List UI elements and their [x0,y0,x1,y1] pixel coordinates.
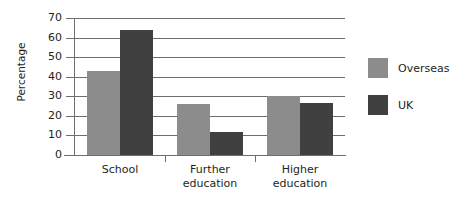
x-axis-separator-tick [165,155,166,162]
legend-item-uk[interactable]: UK [368,95,449,115]
y-tick-mark [66,77,74,78]
x-axis-label-line: School [75,163,165,177]
x-axis-line [64,155,346,156]
x-axis-label-line: education [255,177,345,191]
y-tick-mark [66,38,74,39]
y-tick-label: 20 [38,110,62,121]
y-tick-mark [66,96,74,97]
y-tick-label: 10 [38,129,62,140]
bar-uk-school [120,30,153,155]
uk-swatch [368,95,388,115]
gridline [75,38,345,39]
y-tick-mark [66,135,74,136]
bar-overseas-further-education [177,104,210,155]
legend-item-overseas[interactable]: Overseas [368,58,449,78]
gridline [75,18,345,19]
y-tick-mark [66,18,74,19]
x-axis-label-line: Further [165,163,255,177]
legend-label: Overseas [398,62,449,75]
y-tick-label: 0 [38,149,62,160]
y-tick-label: 70 [38,12,62,23]
y-tick-label: 60 [38,32,62,43]
x-axis-label-line: education [165,177,255,191]
y-axis-title: Percentage [12,0,30,152]
bar-uk-higher-education [300,103,333,155]
y-tick-mark [66,57,74,58]
y-tick-mark [66,155,74,156]
x-axis-label-further-education: Furthereducation [165,163,255,191]
bar-overseas-school [87,71,120,155]
overseas-swatch [368,58,388,78]
bar-overseas-higher-education [267,96,300,155]
gridline [75,57,345,58]
legend-label: UK [398,99,413,112]
x-axis-label-line: Higher [255,163,345,177]
y-tick-mark [66,116,74,117]
x-axis-label-higher-education: Highereducation [255,163,345,191]
y-tick-label: 40 [38,71,62,82]
x-axis-separator-tick [255,155,256,162]
y-tick-label: 50 [38,51,62,62]
plot-area [75,18,345,155]
legend: OverseasUK [368,58,449,132]
x-axis-label-school: School [75,163,165,177]
bar-uk-further-education [210,132,243,155]
bar-chart: Percentage 010203040506070 SchoolFurther… [0,0,469,210]
y-tick-label: 30 [38,90,62,101]
